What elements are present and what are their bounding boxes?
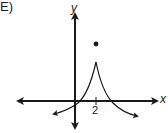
closed-point-marker: [94, 42, 99, 47]
graph-diagram: [0, 0, 168, 133]
curve-right-branch: [96, 62, 137, 116]
